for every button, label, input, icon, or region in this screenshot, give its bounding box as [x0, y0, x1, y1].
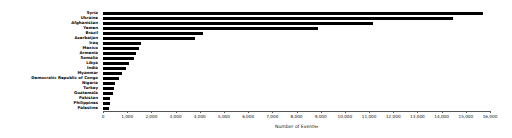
x-axis-tick-label: 10,000 — [338, 114, 353, 119]
bar[interactable] — [103, 52, 136, 55]
bar[interactable] — [103, 62, 129, 65]
x-axis-tick-label: 8,000 — [291, 114, 303, 119]
sort-caret-icon[interactable]: ▾ — [316, 125, 318, 129]
bar[interactable] — [103, 42, 141, 45]
bar-chart: SyriaUkraineAfghanistanYemenBrazilAzerba… — [0, 0, 512, 138]
x-axis-ticks: 01,0002,0003,0004,0005,0006,0007,0008,00… — [103, 111, 490, 125]
x-axis-tick-label: 9,000 — [315, 114, 327, 119]
x-axis-tick-label: 16,000 — [483, 114, 498, 119]
x-axis-tick-label: 13,000 — [410, 114, 425, 119]
bar[interactable] — [103, 22, 373, 25]
bar[interactable] — [103, 102, 110, 105]
plot-area — [103, 11, 490, 111]
x-axis-tick-label: 2,000 — [145, 114, 157, 119]
x-axis-tick-label: 4,000 — [194, 114, 206, 119]
bar[interactable] — [103, 67, 126, 70]
x-axis-tick-label: 12,000 — [386, 114, 401, 119]
bar[interactable] — [103, 77, 119, 80]
bar[interactable] — [103, 27, 318, 30]
x-axis-tick-label: 0 — [102, 114, 105, 119]
bar[interactable] — [103, 12, 483, 15]
x-axis-tick-label: 15,000 — [458, 114, 473, 119]
x-axis-title-text: Number of Events — [275, 124, 316, 129]
bar[interactable] — [103, 17, 453, 20]
y-axis-label: Palestine — [0, 106, 100, 111]
bar[interactable] — [103, 57, 134, 60]
bar[interactable] — [103, 37, 195, 40]
bar[interactable] — [103, 32, 203, 35]
y-axis-category-labels: SyriaUkraineAfghanistanYemenBrazilAzerba… — [0, 11, 100, 111]
x-axis-tick-label: 6,000 — [242, 114, 254, 119]
y-axis-label-text: Palestine — [78, 106, 98, 110]
bar[interactable] — [103, 107, 109, 110]
x-axis-tick-label: 3,000 — [170, 114, 182, 119]
x-axis-tick-label: 14,000 — [434, 114, 449, 119]
x-axis-tick-label: 5,000 — [218, 114, 230, 119]
bar[interactable] — [103, 82, 115, 85]
bar[interactable] — [103, 87, 114, 90]
bar[interactable] — [103, 47, 139, 50]
x-axis-tick-label: 1,000 — [121, 114, 133, 119]
bar[interactable] — [103, 72, 122, 75]
x-axis-title: Number of Events▾ — [103, 124, 490, 130]
bar[interactable] — [103, 92, 113, 95]
x-axis-tick-label: 7,000 — [266, 114, 278, 119]
x-axis-tick-label: 11,000 — [362, 114, 377, 119]
bar[interactable] — [103, 97, 110, 100]
